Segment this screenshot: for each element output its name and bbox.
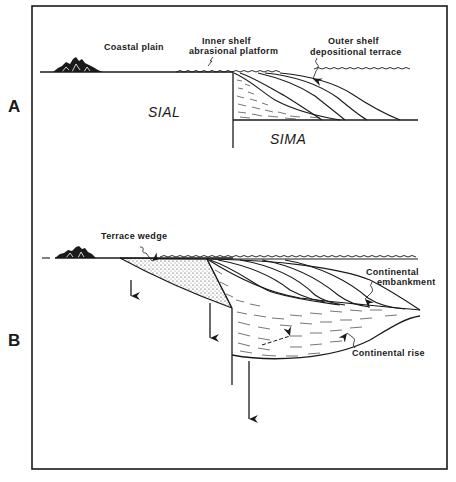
label-outer-shelf-2: depositional terrace [310, 47, 402, 57]
label-inner-shelf-1: Inner shelf [202, 36, 252, 46]
sea-surface-waves-a [176, 68, 410, 73]
leader-inner-shelf [208, 57, 213, 66]
label-continental-rise: Continental rise [352, 348, 425, 358]
label-continental-embankment-2: embankment [377, 277, 436, 287]
panel-b: B [8, 231, 436, 419]
panel-a-label: A [8, 97, 20, 116]
label-inner-shelf-2: abrasional platform [189, 46, 278, 56]
sea-surface-waves-b [160, 256, 416, 258]
rise-sediment-a [234, 73, 340, 120]
mountain-icon-b [55, 246, 96, 258]
label-outer-shelf-1: Outer shelf [328, 36, 380, 46]
label-sial: SIAL [148, 104, 180, 120]
diagram-canvas: A [0, 0, 456, 482]
panel-a: A [8, 36, 418, 148]
panel-b-label: B [8, 331, 20, 350]
label-terrace-wedge: Terrace wedge [101, 231, 167, 241]
label-continental-embankment-1: Continental [366, 267, 419, 277]
label-sima: SIMA [270, 131, 306, 147]
label-coastal-plain: Coastal plain [104, 42, 164, 52]
mountain-icon [53, 57, 103, 72]
